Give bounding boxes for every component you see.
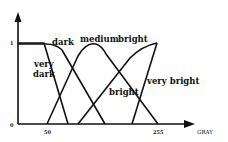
chart-svg: dark medium bright very dark bright very… [0, 0, 228, 142]
x-axis-title: GRAY [197, 129, 213, 135]
label-medium: medium [80, 34, 119, 44]
y-tick-0: 0 [10, 122, 14, 128]
x-tick-255: 255 [153, 129, 164, 135]
curve-dark [18, 44, 105, 124]
x-tick-50: 50 [44, 129, 51, 135]
label-bright-top: bright [118, 34, 148, 44]
label-very-dark-1: very [33, 59, 55, 69]
x-axis-arrow-icon [184, 120, 195, 128]
curve-very-dark [18, 43, 68, 124]
label-bright-mid: bright [109, 87, 139, 97]
label-dark: dark [52, 37, 75, 47]
y-axis-arrow-icon [15, 12, 22, 22]
label-very-bright: very bright [146, 76, 199, 86]
membership-function-chart: dark medium bright very dark bright very… [0, 0, 228, 142]
label-very-dark-2: dark [33, 69, 56, 79]
membership-curves [18, 43, 158, 124]
y-tick-1: 1 [10, 40, 13, 46]
